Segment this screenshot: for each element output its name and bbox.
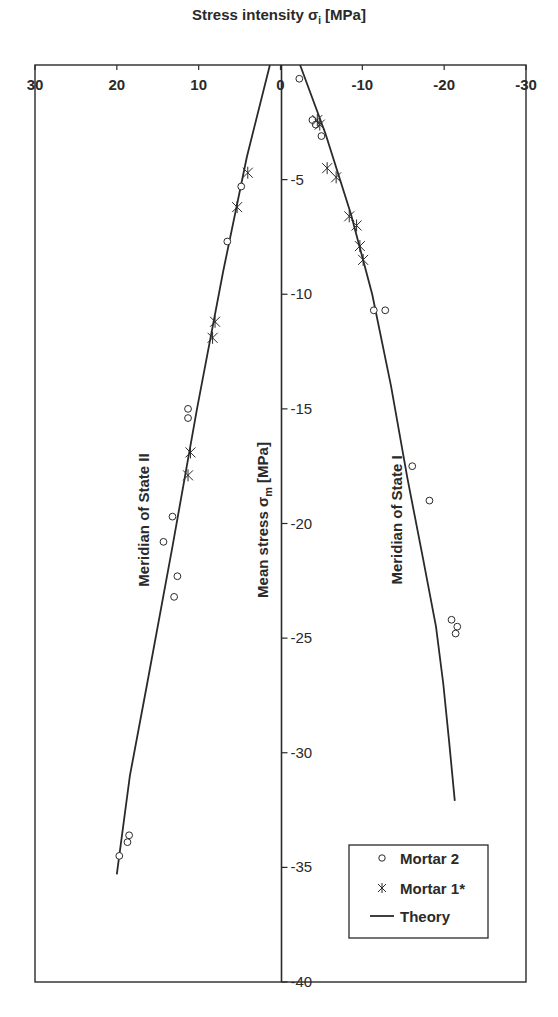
mortar-2-point: [448, 616, 455, 623]
mortar-2-point: [169, 513, 176, 520]
y-axis-label: Mean stress σm [MPa]: [254, 442, 274, 598]
y-tick-label: -35: [291, 858, 313, 875]
y-tick-label: -15: [291, 400, 313, 417]
mortar-1-point: [358, 254, 368, 266]
y-tick-label: -30: [291, 744, 313, 761]
mortar-2-point: [126, 832, 133, 839]
mortar-2-point: [382, 307, 389, 314]
annotation-state-ii: Meridian of State II: [135, 453, 152, 586]
mortar-2-point: [426, 497, 433, 504]
y-tick-label: -40: [291, 973, 313, 990]
legend: Mortar 2 Mortar 1* Theory: [349, 845, 488, 938]
y-tick-label: -5: [291, 171, 304, 188]
mortar-2-point: [370, 307, 377, 314]
mortar-1-point: [210, 316, 220, 328]
mortar-2-point: [318, 133, 325, 140]
mortar-2-point: [160, 538, 167, 545]
y-tick-label: -10: [291, 285, 313, 302]
x-tick-label: -30: [515, 76, 537, 93]
annotation-state-i: Meridian of State I: [388, 455, 405, 584]
mortar-2-point: [124, 839, 131, 846]
mortar-2-point: [409, 463, 416, 470]
mortar-1-point: [322, 162, 332, 174]
legend-label-mortar-1: Mortar 1*: [400, 880, 465, 897]
mortar-2-point: [238, 183, 245, 190]
mortar-2-point: [174, 573, 181, 580]
x-tick-label: 20: [108, 76, 125, 93]
legend-label-theory: Theory: [400, 908, 451, 925]
mortar-2-point: [452, 630, 459, 637]
y-tick-label: -20: [291, 515, 313, 532]
mortar-2-point: [185, 405, 192, 412]
x-tick-label: -20: [433, 76, 455, 93]
mortar-2-point: [454, 623, 461, 630]
mortar-2-point: [171, 593, 178, 600]
x-tick-label: 30: [27, 76, 44, 93]
y-tick-label: -25: [291, 629, 313, 646]
mortar-2-point: [116, 853, 123, 860]
mortar-1-point: [208, 332, 218, 344]
mortar-1-point: [232, 201, 242, 213]
mortar-1-point: [355, 240, 365, 252]
y-axis-ticks: -5-10-15-20-25-30-35-40: [282, 171, 313, 990]
legend-label-mortar-2: Mortar 2: [400, 850, 459, 867]
mortar-1-point: [344, 210, 354, 222]
theory-line: [300, 65, 455, 801]
mortar-2-point: [296, 75, 303, 82]
data-markers: [116, 75, 461, 859]
mortar-2-point: [185, 415, 192, 422]
x-tick-label: -10: [351, 76, 373, 93]
x-tick-label: 10: [190, 76, 207, 93]
mortar-2-point: [224, 238, 231, 245]
x-tick-label: 0: [276, 76, 284, 93]
chart-plot: 3020100-10-20-30 -5-10-15-20-25-30-35-40…: [0, 0, 558, 1017]
mortar-1-point: [185, 446, 195, 458]
